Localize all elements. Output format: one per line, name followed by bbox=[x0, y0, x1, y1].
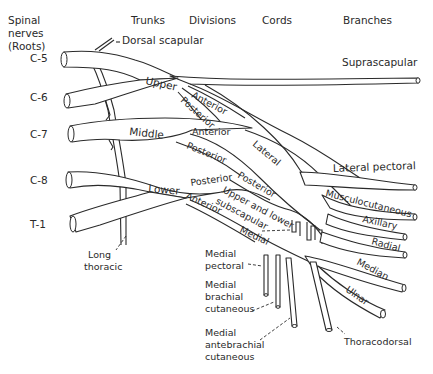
label-medial-pectoral-line1: Medial bbox=[205, 248, 236, 259]
label-dorsal-scapular: Dorsal scapular bbox=[122, 34, 204, 46]
label-thoracodorsal: Thoracodorsal bbox=[343, 336, 412, 347]
label-long-thoracic-line2: thoracic bbox=[84, 261, 122, 272]
root-t1: T-1 bbox=[29, 218, 46, 230]
label-middle-posterior-division: Posterior bbox=[185, 140, 228, 166]
label-medial-antebrachial-line3: cutaneous bbox=[205, 351, 254, 362]
nerve-t1 bbox=[70, 192, 186, 232]
header-cords: Cords bbox=[262, 14, 292, 26]
label-lateral-pectoral: Lateral pectoral bbox=[333, 159, 416, 174]
lateral-cord bbox=[205, 85, 417, 190]
root-c6: C-6 bbox=[30, 91, 48, 103]
label-suprascapular: Suprascapular bbox=[342, 56, 418, 68]
dorsal-scapular-nerve bbox=[95, 38, 120, 51]
nerve-c5 bbox=[61, 51, 178, 80]
suprascapular-nerve bbox=[170, 76, 420, 85]
brachial-plexus-diagram: Spinal nerves (Roots) Trunks Divisions C… bbox=[0, 0, 433, 374]
column-headers: Spinal nerves (Roots) Trunks Divisions C… bbox=[8, 14, 392, 52]
header-divisions: Divisions bbox=[189, 14, 236, 26]
label-medial-brachial-line2: brachial bbox=[205, 291, 243, 302]
label-middle-anterior-division: Anterior bbox=[192, 126, 230, 137]
root-c8: C-8 bbox=[30, 174, 48, 186]
header-branches: Branches bbox=[343, 14, 392, 26]
root-c5: C-5 bbox=[30, 52, 48, 64]
label-medial-brachial-line3: cutaneous bbox=[205, 303, 254, 314]
root-labels: C-5 C-6 C-7 C-8 T-1 bbox=[29, 52, 48, 230]
label-medial-brachial-line1: Medial bbox=[205, 279, 236, 290]
label-medial-pectoral-line2: pectoral bbox=[205, 260, 244, 271]
header-trunks: Trunks bbox=[130, 14, 165, 26]
header-roots-line2: nerves bbox=[8, 27, 44, 39]
label-medial-antebrachial-line1: Medial bbox=[205, 327, 236, 338]
header-roots-line3: (Roots) bbox=[8, 40, 45, 52]
root-c7: C-7 bbox=[30, 128, 48, 140]
header-roots-line1: Spinal bbox=[8, 14, 40, 26]
label-long-thoracic-line1: Long bbox=[88, 249, 111, 260]
label-medial-antebrachial-line2: antebrachial bbox=[205, 339, 265, 350]
